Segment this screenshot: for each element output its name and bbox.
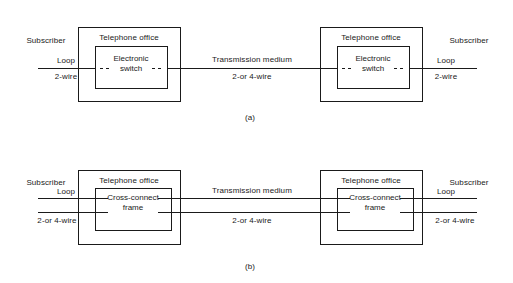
panel-a-left-loop-label: Loop <box>57 56 75 66</box>
panel-b-left-frame-label-line1: Cross-connect <box>107 193 159 202</box>
panel-b-transmission-wire-label: 2-or 4-wire <box>232 216 271 226</box>
panel-b-right-subscriber-title: Subscriber <box>449 178 488 188</box>
panel-b-left-wire-label: 2-or 4-wire <box>37 216 76 226</box>
panel-b-right-wire-label: 2-or 4-wire <box>435 216 474 226</box>
panel-a-transmission-wire-label: 2-or 4-wire <box>232 72 271 82</box>
panel-a-left-subscriber-title: Subscriber <box>26 36 65 46</box>
panel-a-left-office-title: Telephone office <box>99 33 159 43</box>
panel-a-right-switch-label-line2: switch <box>362 64 384 73</box>
panel-a-right-subscriber-title: Subscriber <box>449 36 488 46</box>
panel-a-right-wire-label: 2-wire <box>435 72 457 82</box>
panel-b-tag: (b) <box>245 262 255 271</box>
panel-b-left-frame-label-line2: frame <box>123 203 143 212</box>
panel-b-right-office-title: Telephone office <box>341 176 401 186</box>
panel-a-right-office-title: Telephone office <box>341 33 401 43</box>
panel-b-right-frame-label-line2: frame <box>365 203 385 212</box>
panel-a-tag: (a) <box>245 113 255 122</box>
diagram-vector-layer <box>0 0 513 283</box>
panel-b-left-loop-label: Loop <box>57 187 75 197</box>
panel-b-right-frame-label-line1: Cross-connect <box>349 193 401 202</box>
panel-a-left-switch-label-line1: Electronic <box>113 54 148 63</box>
panel-a-right-loop-label: Loop <box>437 56 455 66</box>
panel-b-left-office-title: Telephone office <box>99 176 159 186</box>
figure-canvas: Subscriber Loop 2-wire Telephone office … <box>0 0 513 283</box>
panel-b-right-frame-label: Cross-connect frame <box>349 193 401 212</box>
panel-b-right-loop-label: Loop <box>437 187 455 197</box>
panel-a-right-switch-label: Electronic switch <box>355 54 390 73</box>
panel-b-transmission-title: Transmission medium <box>212 186 292 196</box>
panel-a-left-switch-label-line2: switch <box>120 64 142 73</box>
panel-b-left-frame-label: Cross-connect frame <box>107 193 159 212</box>
panel-a-right-switch-label-line1: Electronic <box>355 54 390 63</box>
panel-a-left-switch-label: Electronic switch <box>113 54 148 73</box>
panel-a-left-wire-label: 2-wire <box>55 72 77 82</box>
panel-a-transmission-title: Transmission medium <box>212 55 292 65</box>
